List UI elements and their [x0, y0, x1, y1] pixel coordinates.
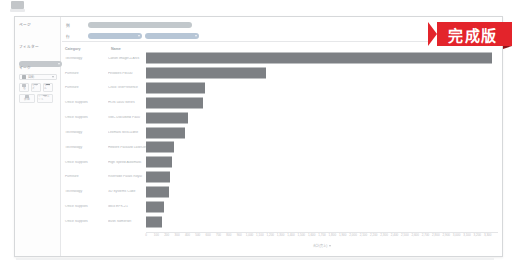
x-tick-label: 400 [185, 234, 190, 237]
table-row[interactable]: Office SuppliesHigh Speed Automatic [62, 155, 502, 170]
bar[interactable] [146, 172, 170, 183]
x-tick-label: 1,700 [318, 234, 326, 237]
marks-detail-button[interactable]: 詳細 [19, 94, 35, 103]
marks-color-button[interactable]: 色 [19, 83, 29, 92]
row-header-name: Bush Somerset [108, 220, 146, 223]
bar[interactable] [146, 142, 174, 153]
marks-type-label: 自動 [28, 74, 50, 79]
table-row[interactable]: FurnitureRiverside Palais Royal [62, 170, 502, 185]
row-header-name: 3D Systems Cube [108, 190, 146, 193]
bar[interactable] [146, 68, 266, 79]
bar[interactable] [146, 216, 162, 227]
x-tick-label: 500 [195, 234, 200, 237]
table-row[interactable]: Office SuppliesGBC DocuBind P400 [62, 110, 502, 125]
marks-tooltip-label: ツールヒント [38, 96, 52, 101]
table-row[interactable]: Technology3D Systems Cube [62, 185, 502, 200]
table-row[interactable]: TechnologyCanon imageCLASS [62, 51, 502, 66]
chevron-down-icon [138, 35, 140, 37]
chevron-down-icon [52, 76, 54, 78]
chevron-down-icon [329, 245, 331, 247]
x-axis-title[interactable]: 合計(売上) [146, 243, 498, 248]
chevron-down-icon [58, 63, 60, 65]
row-header-name: Cisco TelePresence [108, 86, 146, 89]
row-header-name: GBC DocuBind P400 [108, 116, 146, 119]
x-tick-label: 1,500 [298, 234, 306, 237]
table-row[interactable]: Office SuppliesIbico EPK-21 [62, 199, 502, 214]
row-header-category: Office Supplies [62, 161, 108, 164]
x-tick-label: 0 [145, 234, 147, 237]
x-tick-label: 700 [216, 234, 221, 237]
row-header-category: Furniture [62, 175, 108, 178]
table-row[interactable]: Office SuppliesHON 5400 Series [62, 96, 502, 111]
table-row[interactable]: TechnologyLexmark MX611dhe [62, 125, 502, 140]
screenshot-root: ページ フィルター マーク 自動 [0, 0, 518, 274]
x-tick-label: 100 [154, 234, 159, 237]
bar-cell [146, 185, 502, 200]
table-row[interactable]: Office SuppliesBush Somerset [62, 214, 502, 229]
marks-color-label: 色 [23, 88, 26, 91]
bar-cell [146, 96, 502, 111]
bar[interactable] [146, 201, 164, 212]
marks-label-button[interactable]: ラベル [43, 83, 53, 92]
marks-size-button[interactable]: サイズ [31, 83, 41, 92]
x-tick-label: 2,400 [391, 234, 399, 237]
x-tick-label: 3,200 [474, 234, 482, 237]
x-tick-label: 2,100 [360, 234, 368, 237]
bar-cell [146, 51, 502, 66]
x-tick-label: 1,800 [329, 234, 337, 237]
bar[interactable] [146, 97, 203, 108]
bar[interactable] [146, 127, 185, 138]
x-tick-label: 2,900 [442, 234, 450, 237]
columns-shelf-label: 列 [66, 23, 88, 28]
bar[interactable] [146, 112, 188, 123]
row-header-name: Canon imageCLASS [108, 57, 146, 60]
row-header-category: Furniture [62, 72, 108, 75]
app-logo-shadow [10, 9, 25, 12]
marks-card: マーク 自動 色 サイズ [19, 67, 57, 103]
x-tick-label: 900 [237, 234, 242, 237]
row-header-category: Office Supplies [62, 116, 108, 119]
bar-cell [146, 140, 502, 155]
table-row[interactable]: FurnitureFellowes PB500 [62, 66, 502, 81]
row-header-name: HON 5400 Series [108, 101, 146, 104]
bar[interactable] [146, 157, 172, 168]
marks-type-select[interactable]: 自動 [19, 74, 57, 80]
marks-size-label: サイズ [32, 85, 40, 90]
x-tick-label: 300 [175, 234, 180, 237]
marks-label-label: ラベル [44, 85, 52, 90]
row-header-category: Furniture [62, 86, 108, 89]
x-tick-label: 3,100 [463, 234, 471, 237]
bar[interactable] [146, 53, 492, 64]
columns-pill-sales[interactable] [88, 22, 192, 29]
x-tick-label: 1,900 [339, 234, 347, 237]
row-header-category: Technology [62, 57, 108, 60]
pages-card: ページ [19, 24, 31, 28]
row-header-category: Technology [62, 190, 108, 193]
row-header-name: Riverside Palais Royal [108, 175, 146, 178]
bar-cell [146, 81, 502, 96]
row-header-name: Lexmark MX611dhe [108, 131, 146, 134]
filters-card-title: フィルター [19, 46, 62, 50]
bar[interactable] [146, 186, 169, 197]
x-tick-label: 2,000 [349, 234, 357, 237]
x-axis: 01002003004005006007008009001,0001,1001,… [146, 230, 498, 256]
marks-tooltip-button[interactable]: ツールヒント [37, 94, 53, 103]
bar-cell [146, 155, 502, 170]
bar-cell [146, 125, 502, 140]
bar-cell [146, 214, 502, 229]
x-tick-label: 2,300 [380, 234, 388, 237]
table-row[interactable]: FurnitureCisco TelePresence [62, 81, 502, 96]
chevron-down-icon [195, 35, 197, 37]
status-badge-tail [503, 46, 512, 49]
x-tick-label: 800 [226, 234, 231, 237]
x-axis-ticks: 01002003004005006007008009001,0001,1001,… [146, 234, 498, 242]
chart-area: Category Name TechnologyCanon imageCLASS… [62, 42, 502, 256]
bar[interactable] [146, 83, 205, 94]
rows-pill-name[interactable] [145, 33, 199, 40]
rows-shelf-label: 行 [66, 34, 88, 39]
marks-card-title: マーク [19, 67, 57, 71]
table-row[interactable]: TechnologyHewlett Packard LaserJet [62, 140, 502, 155]
x-tick-label: 1,400 [287, 234, 295, 237]
marks-buttons: 色 サイズ ラベル 詳細 [19, 83, 57, 103]
rows-pill-category[interactable] [88, 33, 142, 40]
